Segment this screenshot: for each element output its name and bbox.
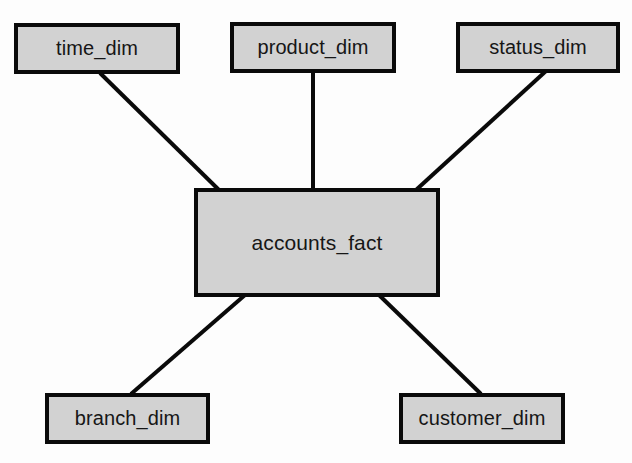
table-node-product-dim[interactable]: product_dim — [230, 22, 396, 73]
table-node-label: customer_dim — [419, 408, 546, 429]
table-node-time-dim[interactable]: time_dim — [14, 23, 180, 74]
table-node-label: accounts_fact — [252, 232, 383, 254]
edge-status-dim-to-accounts-fact — [416, 71, 546, 190]
table-node-branch-dim[interactable]: branch_dim — [45, 393, 210, 444]
table-node-label: branch_dim — [75, 408, 181, 429]
table-node-status-dim[interactable]: status_dim — [456, 22, 620, 73]
table-node-label: status_dim — [489, 37, 587, 58]
star-schema-diagram: time_dim product_dim status_dim accounts… — [0, 0, 632, 463]
table-node-customer-dim[interactable]: customer_dim — [399, 393, 565, 444]
edge-branch-dim-to-accounts-fact — [131, 295, 245, 394]
edge-time-dim-to-accounts-fact — [100, 73, 219, 190]
table-node-accounts-fact[interactable]: accounts_fact — [194, 188, 440, 297]
table-node-label: time_dim — [56, 38, 138, 59]
table-node-label: product_dim — [257, 37, 368, 58]
edge-customer-dim-to-accounts-fact — [379, 295, 481, 394]
